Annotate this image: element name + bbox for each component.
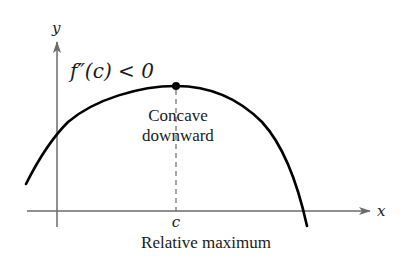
y-axis-label: y (51, 19, 61, 37)
concavity-diagram: y x f″(c) < 0 Concave downward c Relativ… (0, 0, 408, 267)
x-axis-label: x (377, 202, 386, 220)
relative-maximum-point (172, 82, 180, 90)
second-derivative-condition: f″(c) < 0 (68, 59, 154, 83)
c-tick-label: c (172, 213, 181, 231)
caption-relative-maximum: Relative maximum (141, 233, 271, 252)
concavity-label-line2: downward (142, 126, 214, 145)
concavity-label-line1: Concave (148, 106, 207, 125)
